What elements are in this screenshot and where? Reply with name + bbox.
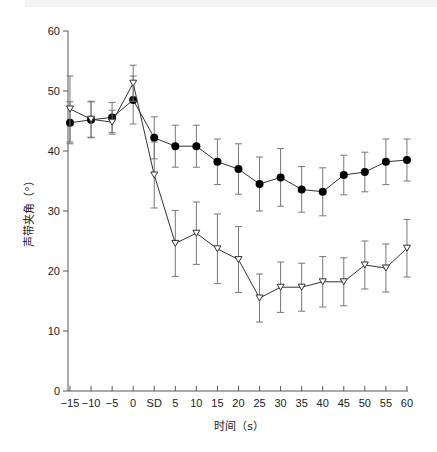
- data-point-triangle: [256, 295, 263, 301]
- data-point-circle: [256, 180, 264, 188]
- x-tick-label: 0: [130, 397, 136, 409]
- y-tick-label: 0: [54, 385, 60, 397]
- y-axis-title: 声带夹角（°）: [22, 175, 36, 247]
- data-point-circle: [213, 158, 221, 166]
- x-tick-label: 20: [232, 397, 244, 409]
- data-point-circle: [361, 168, 369, 176]
- x-tick-label: 5: [172, 397, 178, 409]
- x-tick-label: 25: [253, 397, 265, 409]
- data-point-triangle: [172, 240, 179, 246]
- data-point-circle: [171, 142, 179, 150]
- data-point-circle: [234, 165, 242, 173]
- data-point-triangle: [214, 246, 221, 252]
- data-point-circle: [319, 188, 327, 196]
- data-point-triangle: [235, 257, 242, 263]
- axes: 0102030405060−15−10−50SD5101520253035404…: [48, 25, 413, 409]
- x-tick-label: −15: [61, 397, 80, 409]
- x-tick-label: 55: [380, 397, 392, 409]
- data-point-circle: [150, 134, 158, 142]
- y-tick-label: 40: [48, 145, 60, 157]
- series-layer: [66, 65, 411, 322]
- x-tick-label: −5: [106, 397, 119, 409]
- data-point-circle: [277, 173, 285, 181]
- x-tick-label: 35: [296, 397, 308, 409]
- data-point-circle: [340, 171, 348, 179]
- x-axis-title: 时间（s）: [214, 420, 264, 433]
- data-point-circle: [382, 158, 390, 166]
- y-tick-label: 10: [48, 325, 60, 337]
- x-tick-label: 15: [211, 397, 223, 409]
- line-chart: 0102030405060−15−10−50SD5101520253035404…: [0, 0, 437, 452]
- y-tick-label: 60: [48, 25, 60, 37]
- x-tick-label: 60: [401, 397, 413, 409]
- x-tick-label: 30: [274, 397, 286, 409]
- y-tick-label: 20: [48, 265, 60, 277]
- x-tick-label: SD: [147, 397, 162, 409]
- data-point-circle: [403, 156, 411, 164]
- x-tick-label: 50: [359, 397, 371, 409]
- x-tick-label: 40: [317, 397, 329, 409]
- y-tick-label: 50: [48, 85, 60, 97]
- x-tick-label: 45: [338, 397, 350, 409]
- y-tick-label: 30: [48, 205, 60, 217]
- x-tick-label: −10: [82, 397, 101, 409]
- data-point-circle: [192, 142, 200, 150]
- series-filled-circle: [66, 76, 411, 216]
- data-point-triangle: [130, 80, 137, 86]
- x-tick-label: 10: [190, 397, 202, 409]
- data-point-triangle: [151, 172, 158, 178]
- data-point-circle: [298, 185, 306, 193]
